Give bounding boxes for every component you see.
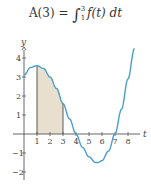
x-tick-label: 8 [126,137,131,146]
y-axis-arrow-icon [22,47,26,50]
y-tick-label: −2 [12,168,24,177]
x-tick-label: 6 [100,137,105,146]
x-tick-label: 1 [35,137,40,146]
y-tick-label: 2 [16,92,21,101]
y-tick-label: 4 [16,54,21,63]
y-tick-label: −1 [12,149,24,158]
shaded-area [37,66,63,134]
y-tick-label: 3 [16,73,21,82]
x-tick-label: 5 [87,137,92,146]
x-tick-label: 2 [48,137,53,146]
y-axis-label: y [20,37,27,47]
function-graph: ty123456784321−1−2 [0,0,151,188]
x-tick-label: 3 [61,137,66,146]
y-tick-label: 1 [16,111,21,120]
x-axis-label: t [143,129,147,139]
